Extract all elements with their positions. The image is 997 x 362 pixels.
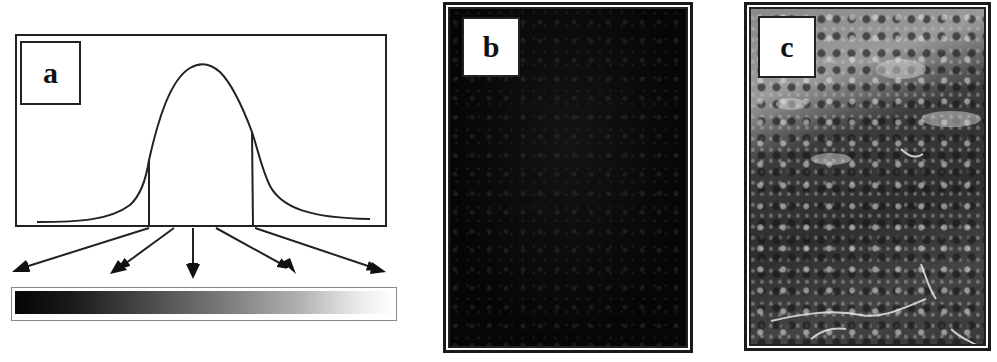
panel-label-c: c	[758, 16, 816, 78]
enhanced-satellite-image: c	[749, 7, 986, 346]
right-cut-line	[252, 132, 253, 227]
grayscale-gradient	[15, 291, 393, 314]
arrowheads	[12, 258, 386, 279]
normal-distribution-curve	[37, 64, 370, 222]
dark-satellite-image: b	[448, 7, 688, 348]
mapping-arrows	[22, 228, 374, 270]
grayscale-bar	[11, 287, 397, 321]
enhanced-satellite-image-panel: c	[744, 2, 991, 351]
dark-satellite-image-panel: b	[443, 2, 693, 353]
panel-label-b: b	[462, 17, 520, 77]
